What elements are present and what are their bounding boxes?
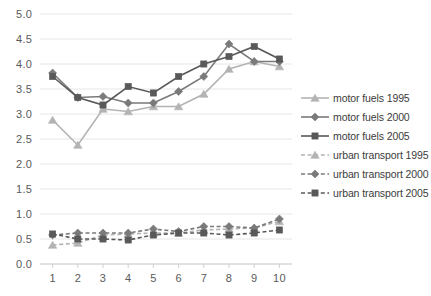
data-point	[50, 73, 56, 79]
data-point	[226, 53, 232, 59]
series-urban-transport-1995	[48, 218, 283, 249]
legend-item[interactable]: motor fuels 1995	[300, 88, 428, 107]
data-point	[124, 99, 132, 107]
data-point	[50, 231, 56, 237]
series-line	[53, 44, 280, 103]
legend-marker-icon	[300, 129, 330, 143]
series-motor-fuels-1995	[48, 58, 283, 149]
data-point	[100, 102, 106, 108]
legend-label: urban transport 1995	[333, 149, 428, 161]
data-point	[176, 73, 182, 79]
series-urban-transport-2005	[50, 227, 283, 243]
legend-marker-icon	[300, 148, 330, 162]
data-point	[276, 56, 282, 62]
data-point	[201, 61, 207, 67]
data-point	[251, 43, 257, 49]
legend-label: motor fuels 2000	[333, 111, 410, 123]
legend-item[interactable]: urban transport 2005	[300, 183, 428, 202]
data-point	[75, 94, 81, 100]
series-layer	[48, 40, 283, 248]
axis-lines	[40, 264, 292, 268]
series-motor-fuels-2005	[50, 43, 283, 108]
series-line	[53, 62, 280, 146]
legend-label: urban transport 2005	[333, 187, 428, 199]
legend-marker-icon	[300, 91, 330, 105]
data-point	[201, 230, 207, 236]
data-point	[251, 230, 257, 236]
legend-marker-icon	[300, 110, 330, 124]
legend-item[interactable]: urban transport 1995	[300, 145, 428, 164]
data-point	[100, 236, 106, 242]
legend: motor fuels 1995motor fuels 2000motor fu…	[300, 88, 428, 202]
data-point	[276, 227, 282, 233]
legend-label: motor fuels 2005	[333, 130, 410, 142]
legend-label: urban transport 2000	[333, 168, 428, 180]
chart-container: 0.00.51.01.52.02.53.03.54.04.55.0 123456…	[0, 0, 431, 296]
legend-marker-icon	[300, 167, 330, 181]
legend-item[interactable]: urban transport 2000	[300, 164, 428, 183]
data-point	[125, 237, 131, 243]
data-point	[99, 92, 107, 100]
data-point	[226, 232, 232, 238]
legend-marker-icon	[300, 186, 330, 200]
data-point	[150, 232, 156, 238]
legend-item[interactable]: motor fuels 2005	[300, 126, 428, 145]
series-motor-fuels-2000	[49, 40, 284, 107]
data-point	[176, 230, 182, 236]
legend-label: motor fuels 1995	[333, 92, 410, 104]
data-point	[125, 83, 131, 89]
legend-item[interactable]: motor fuels 2000	[300, 107, 428, 126]
series-urban-transport-2000	[49, 215, 284, 239]
data-point	[75, 236, 81, 242]
data-point	[150, 90, 156, 96]
data-point	[48, 116, 56, 123]
